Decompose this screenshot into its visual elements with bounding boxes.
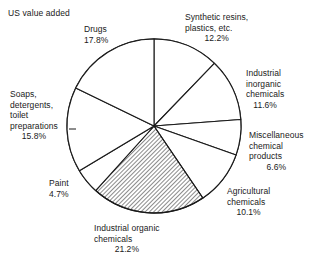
slice-label-industrial-organic: Industrial organic chemicals 21.2% — [94, 223, 160, 255]
slice-label-paint-line1: Paint — [49, 178, 69, 188]
slice-label-soaps-line1: Soaps, — [10, 89, 37, 99]
slice-label-paint-percent: 4.7% — [49, 189, 69, 200]
slice-label-industrial-organic-percent: 21.2% — [94, 244, 160, 255]
slice-label-industrial-inorganic-line2: inorganic — [246, 79, 281, 89]
slice-label-miscellaneous-line3: products — [249, 151, 282, 161]
slice-label-industrial-inorganic-line1: Industrial — [246, 68, 281, 78]
slice-label-industrial-inorganic: Industrial inorganic chemicals 11.6% — [246, 68, 284, 110]
slice-label-synthetic-resins-percent: 12.2% — [185, 33, 248, 44]
slice-label-drugs-percent: 17.8% — [84, 35, 108, 46]
slice-label-agricultural-percent: 10.1% — [227, 207, 270, 218]
slice-label-soaps: Soaps, detergents, toilet preparations 1… — [10, 89, 58, 142]
slice-label-industrial-inorganic-line3: chemicals — [246, 89, 284, 99]
slice-label-industrial-organic-line1: Industrial organic — [94, 223, 160, 233]
slice-label-agricultural-line2: chemicals — [227, 197, 265, 207]
slice-label-soaps-line3: toilet — [10, 110, 28, 120]
pie-slice-layer — [67, 39, 241, 213]
slice-label-agricultural-line1: Agricultural — [227, 186, 270, 196]
slice-label-miscellaneous: Miscellaneous chemical products 6.6% — [249, 130, 304, 172]
slice-label-synthetic-resins-line1: Synthetic resins, — [185, 12, 248, 22]
slice-label-soaps-line2: detergents, — [10, 100, 53, 110]
pie-chart-figure: US value added Drugs 17.8% Synthetic res… — [0, 0, 316, 260]
slice-label-drugs-line1: Drugs — [84, 24, 107, 34]
slice-label-industrial-organic-line2: chemicals — [94, 234, 132, 244]
slice-label-miscellaneous-percent: 6.6% — [249, 162, 304, 173]
slice-label-synthetic-resins: Synthetic resins, plastics, etc. 12.2% — [185, 12, 248, 44]
slice-label-paint: Paint 4.7% — [49, 178, 69, 199]
slice-label-soaps-percent: 15.8% — [10, 131, 58, 142]
slice-label-soaps-line4: preparations — [10, 121, 58, 131]
slice-label-miscellaneous-line2: chemical — [249, 141, 283, 151]
slice-label-drugs: Drugs 17.8% — [84, 24, 108, 45]
slice-label-synthetic-resins-line2: plastics, etc. — [185, 23, 232, 33]
slice-label-agricultural: Agricultural chemicals 10.1% — [227, 186, 270, 218]
slice-label-miscellaneous-line1: Miscellaneous — [249, 130, 304, 140]
slice-label-industrial-inorganic-percent: 11.6% — [246, 100, 284, 111]
